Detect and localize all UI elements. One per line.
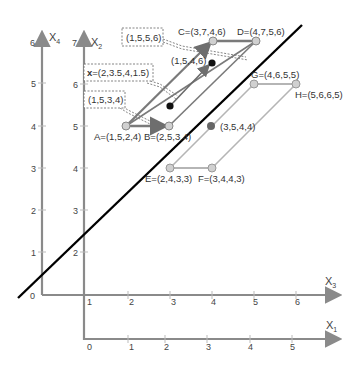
- svg-text:(1,5,5,6): (1,5,5,6): [126, 32, 161, 43]
- point-g-marker: [250, 80, 258, 88]
- x3-axis-label: X3: [325, 275, 336, 289]
- x3-tick-2: 2: [129, 297, 134, 307]
- x2-tick-6: 6: [73, 80, 78, 90]
- x3-tick-1: 1: [87, 297, 92, 307]
- x1-tick-4: 4: [248, 342, 253, 352]
- center-lower-marker: [207, 122, 215, 130]
- x4-tick-2: 2: [31, 206, 36, 216]
- x2-tick-7: 7: [72, 38, 77, 48]
- x1-tick-3: 3: [206, 342, 211, 352]
- x1-tick-1: 1: [129, 342, 134, 352]
- x4-tick-4: 4: [31, 122, 36, 132]
- label-inner-point: (1,5,4,6): [171, 55, 206, 66]
- x4-tick-1: 1: [31, 248, 36, 258]
- callout-3: (1,5,3,4): [84, 91, 125, 108]
- separator-line: [18, 25, 302, 298]
- svg-text:(1,5,3,4): (1,5,3,4): [88, 94, 123, 105]
- point-a-marker: [122, 122, 130, 130]
- x3-tick-5: 5: [253, 297, 258, 307]
- label-center-lower: (3,5,4,4): [220, 121, 255, 132]
- x1-tick-0: 0: [87, 342, 92, 352]
- x4-tick-3: 3: [31, 164, 36, 174]
- label-f: F=(3,4,4,3): [198, 173, 245, 184]
- x1-tick-5: 5: [290, 342, 295, 352]
- label-b: B=(2,5,3,4): [144, 131, 191, 142]
- label-h: H=(5,6,6,5): [295, 89, 343, 100]
- x3-tick-4: 4: [211, 297, 216, 307]
- label-g: G=(4,6,5,5): [251, 69, 299, 80]
- point-e-marker: [166, 164, 174, 172]
- svg-text:x=(2,3.5,4,1.5): x=(2,3.5,4,1.5): [87, 67, 149, 78]
- x1-tick-2: 2: [164, 342, 169, 352]
- x2-tick-5: 5: [73, 122, 78, 132]
- x3-tick-3: 3: [171, 297, 176, 307]
- inner-point-marker: [208, 59, 215, 66]
- point-d-marker: [252, 37, 260, 45]
- label-e: E=(2,4,3,3): [145, 173, 192, 184]
- point-c-marker: [209, 37, 217, 45]
- label-a: A=(1,5,2,4): [94, 131, 141, 142]
- x2-tick-4: 4: [73, 164, 78, 174]
- x2-tick-3: 3: [73, 206, 78, 216]
- x1-axis: 0 1 2 3 4 5 X1: [84, 319, 338, 352]
- x2-axis-label: X2: [91, 36, 102, 50]
- x-point-marker: [166, 102, 173, 109]
- x1-axis-label: X1: [326, 319, 337, 333]
- point-h-marker: [292, 80, 300, 88]
- x4-tick-0: 0: [30, 291, 35, 301]
- callout-leaders: [120, 39, 248, 128]
- point-f-marker: [208, 164, 216, 172]
- x3-axis: 1 2 3 4 5 6 X3: [42, 275, 338, 307]
- parallel-coordinates-diagram: 0 1 2 3 4 5 6 X4 2 3 4 5 6 7 X2 1 2 3 4 …: [0, 0, 359, 371]
- x3-tick-6: 6: [295, 297, 300, 307]
- callout-1: (1,5,5,6): [122, 28, 163, 46]
- callout-2: x=(2,3.5,4,1.5): [84, 64, 153, 81]
- x4-axis-label: X4: [49, 31, 60, 45]
- x4-tick-6: 6: [30, 38, 35, 48]
- label-d: D=(4,7,5,6): [237, 26, 285, 37]
- x4-tick-5: 5: [31, 79, 36, 89]
- x2-tick-2: 2: [73, 248, 78, 258]
- label-c: C=(3,7,4,6): [178, 26, 226, 37]
- upper-parallelogram: [126, 41, 256, 126]
- point-b-marker: [165, 122, 173, 130]
